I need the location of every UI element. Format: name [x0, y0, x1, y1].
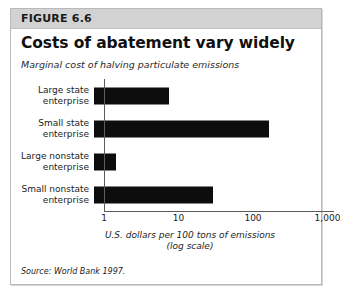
title-block: Costs of abatement vary widely Marginal … [11, 29, 321, 70]
plot-area: Large state enterprise Small state enter… [11, 79, 321, 211]
bar-row: Large state enterprise [11, 79, 321, 112]
bar-row: Small nonstate enterprise [11, 178, 321, 211]
bar-track [94, 145, 321, 178]
y-axis-line [104, 79, 105, 211]
bar-category-label-line: Small nonstate [11, 184, 89, 194]
bar-track [94, 79, 321, 112]
x-tick-label: 1 [101, 213, 107, 223]
bar-row: Large nonstate enterprise [11, 145, 321, 178]
bar-category-label-line: enterprise [11, 162, 89, 172]
bar-category-label: Large state enterprise [11, 85, 94, 106]
x-tick-label: 1,000 [315, 213, 340, 223]
bar-track [94, 178, 321, 211]
bar-small-nonstate-enterprise [94, 186, 213, 203]
bar-large-nonstate-enterprise [94, 153, 116, 170]
bar-category-label-line: enterprise [11, 129, 89, 139]
source-note: Source: World Bank 1997. [21, 267, 125, 276]
x-axis-title-line1: U.S. dollars per 100 tons of emissions [71, 230, 309, 241]
bar-category-label: Large nonstate enterprise [11, 151, 94, 172]
x-axis-title: U.S. dollars per 100 tons of emissions (… [11, 230, 321, 253]
bar-category-label: Small state enterprise [11, 118, 94, 139]
bar-large-state-enterprise [94, 87, 169, 104]
x-axis-line [104, 211, 334, 212]
bar-small-state-enterprise [94, 120, 269, 137]
x-axis-ticks: 1101001,000 [11, 213, 321, 229]
bar-category-label: Small nonstate enterprise [11, 184, 94, 205]
bar-row: Small state enterprise [11, 112, 321, 145]
figure-header: FIGURE 6.6 [11, 9, 321, 29]
bar-track [94, 112, 321, 145]
x-tick-label: 100 [244, 213, 261, 223]
bar-category-label-line: enterprise [11, 96, 89, 106]
figure-container: FIGURE 6.6 Costs of abatement vary widel… [10, 8, 322, 285]
bar-category-label-line: Large nonstate [11, 151, 89, 161]
x-axis-title-line2: (log scale) [71, 241, 309, 252]
x-tick-label: 10 [173, 213, 184, 223]
bar-category-label-line: Small state [11, 118, 89, 128]
bar-category-label-line: enterprise [11, 195, 89, 205]
bar-category-label-line: Large state [11, 85, 89, 95]
chart-subtitle: Marginal cost of halving particulate emi… [21, 59, 311, 70]
figure-number-label: FIGURE 6.6 [21, 12, 92, 25]
source-divider [11, 259, 321, 260]
chart-title: Costs of abatement vary widely [21, 35, 311, 53]
